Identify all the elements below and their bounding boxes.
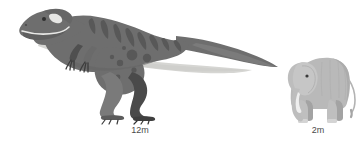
size-comparison-illustration: [0, 0, 360, 147]
elephant-size-label: 2m: [258, 126, 360, 135]
trex-eye: [42, 17, 46, 21]
elephant-eye: [305, 74, 308, 77]
trex-nostril: [25, 24, 27, 26]
dinosaur-size-label: 12m: [0, 126, 280, 135]
